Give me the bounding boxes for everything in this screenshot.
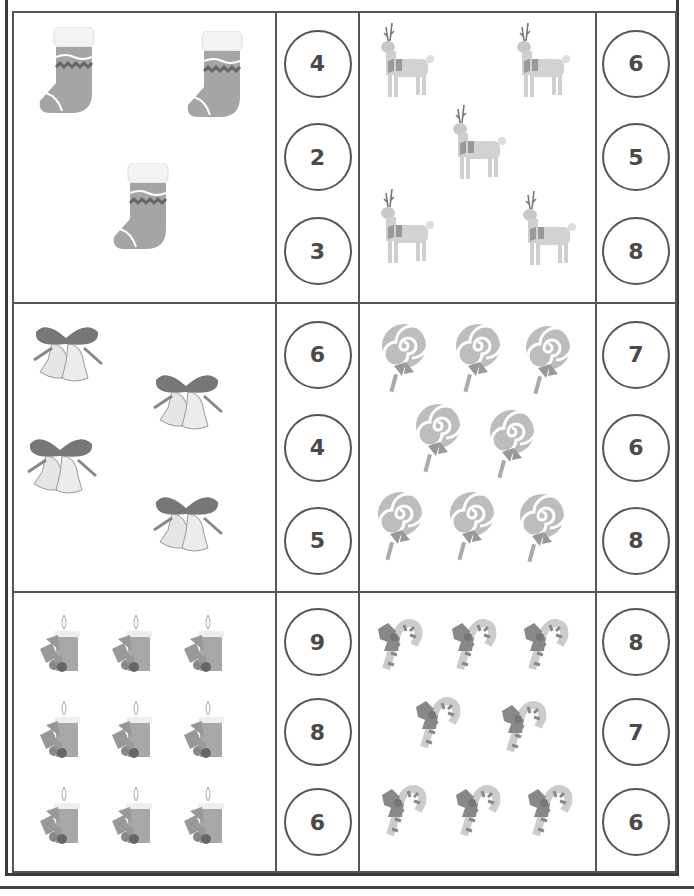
answer-column-reindeer: 6 5 8 <box>597 13 675 304</box>
answer-option-circle[interactable]: 4 <box>284 30 352 98</box>
answer-option-circle[interactable]: 3 <box>284 217 352 285</box>
lollipop-icon <box>452 322 504 396</box>
picture-cell-lollipops <box>360 304 597 593</box>
candy-cane-icon <box>524 775 574 841</box>
candle-icon <box>182 699 232 765</box>
answer-option-circle[interactable]: 8 <box>602 217 670 285</box>
lollipop-icon <box>374 490 426 564</box>
answer-column-candles: 9 8 6 <box>277 593 360 871</box>
worksheet-grid: 4 2 3 6 5 8 6 4 5 7 6 8 <box>12 11 677 873</box>
answer-option-circle[interactable]: 6 <box>602 30 670 98</box>
answer-column-candy-canes: 8 7 6 <box>597 593 675 871</box>
answer-option-circle[interactable]: 6 <box>284 788 352 856</box>
reindeer-icon <box>446 105 508 185</box>
candy-cane-icon <box>412 687 462 753</box>
lollipop-icon <box>378 322 430 396</box>
lollipop-icon <box>486 408 538 482</box>
candy-cane-icon <box>498 691 548 757</box>
reindeer-icon <box>516 191 578 271</box>
lollipop-icon <box>446 490 498 564</box>
answer-option-circle[interactable]: 6 <box>284 321 352 389</box>
candle-icon <box>110 699 160 765</box>
reindeer-icon <box>510 23 572 103</box>
picture-cell-stockings <box>14 13 277 304</box>
bells-icon <box>20 432 100 500</box>
answer-option-circle[interactable]: 6 <box>602 788 670 856</box>
bells-icon <box>146 368 226 436</box>
candy-cane-icon <box>452 775 502 841</box>
candle-icon <box>38 613 88 679</box>
answer-option-circle[interactable]: 8 <box>602 507 670 575</box>
answer-option-circle[interactable]: 8 <box>284 698 352 766</box>
candy-cane-icon <box>520 609 570 675</box>
candle-icon <box>182 785 232 851</box>
stocking-icon <box>36 27 98 117</box>
answer-column-stockings: 4 2 3 <box>277 13 360 304</box>
picture-cell-candles <box>14 593 277 871</box>
candle-icon <box>38 785 88 851</box>
answer-option-circle[interactable]: 7 <box>602 698 670 766</box>
reindeer-icon <box>374 23 436 103</box>
answer-column-bells: 6 4 5 <box>277 304 360 593</box>
answer-option-circle[interactable]: 5 <box>284 507 352 575</box>
candy-cane-icon <box>374 609 424 675</box>
candy-cane-icon <box>448 609 498 675</box>
candle-icon <box>110 613 160 679</box>
answer-option-circle[interactable]: 9 <box>284 608 352 676</box>
picture-cell-bells <box>14 304 277 593</box>
answer-option-circle[interactable]: 5 <box>602 123 670 191</box>
picture-cell-reindeer <box>360 13 597 304</box>
picture-cell-candy-canes <box>360 593 597 871</box>
answer-option-circle[interactable]: 6 <box>602 414 670 482</box>
bells-icon <box>146 490 226 558</box>
stocking-icon <box>110 163 172 253</box>
candle-icon <box>110 785 160 851</box>
answer-option-circle[interactable]: 2 <box>284 123 352 191</box>
lollipop-icon <box>412 402 464 476</box>
answer-option-circle[interactable]: 8 <box>602 608 670 676</box>
lollipop-icon <box>522 324 574 398</box>
candle-icon <box>182 613 232 679</box>
candy-cane-icon <box>378 775 428 841</box>
answer-option-circle[interactable]: 7 <box>602 321 670 389</box>
lollipop-icon <box>516 492 568 566</box>
answer-option-circle[interactable]: 4 <box>284 414 352 482</box>
reindeer-icon <box>374 189 436 269</box>
bottom-rule <box>0 886 694 889</box>
answer-column-lollipops: 7 6 8 <box>597 304 675 593</box>
bells-icon <box>26 320 106 388</box>
candle-icon <box>38 699 88 765</box>
stocking-icon <box>184 31 246 121</box>
